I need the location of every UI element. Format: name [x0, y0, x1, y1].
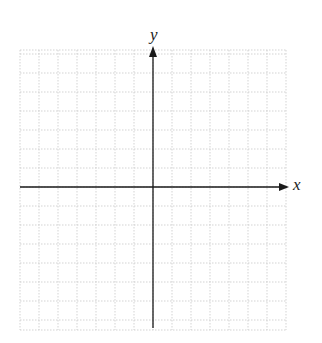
y-axis-arrow-icon	[149, 46, 157, 57]
y-axis-label: y	[150, 26, 158, 43]
x-axis-arrow-icon	[279, 183, 289, 191]
x-axis-label: x	[293, 176, 301, 193]
coordinate-plane	[0, 0, 322, 343]
